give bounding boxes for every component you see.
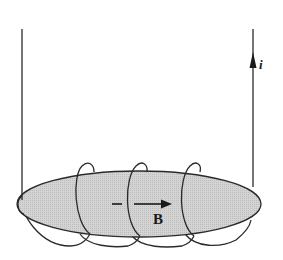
- field-label: B: [153, 211, 163, 227]
- current-arrow-icon: [250, 52, 257, 68]
- solenoid-diagram: i B: [0, 0, 283, 260]
- current-label: i: [259, 57, 263, 72]
